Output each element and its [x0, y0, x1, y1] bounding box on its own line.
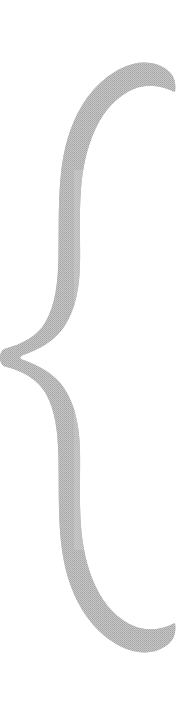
image-canvas: Large hand-drawn curly brace [0, 0, 180, 705]
curly-brace-graphic [0, 0, 180, 705]
